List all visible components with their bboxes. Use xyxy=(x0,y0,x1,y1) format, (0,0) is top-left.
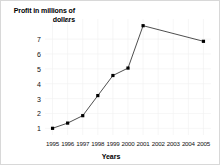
y-axis-tick-label: 1 xyxy=(29,125,41,132)
x-axis-tick-label: 2005 xyxy=(192,140,214,147)
x-axis-title: Years xyxy=(1,153,220,160)
y-axis-tick-label: 4 xyxy=(29,80,41,87)
y-axis-tick-label: 7 xyxy=(29,36,41,43)
data-point-marker xyxy=(141,24,144,27)
data-point-marker xyxy=(81,114,84,117)
y-axis-tick-label: 6 xyxy=(29,50,41,57)
data-point-marker xyxy=(96,94,99,97)
data-point-marker xyxy=(66,122,69,125)
data-point-marker xyxy=(126,66,129,69)
y-axis-tick-label: 3 xyxy=(29,95,41,102)
data-point-marker xyxy=(111,74,114,77)
y-axis-tick-label: 5 xyxy=(29,65,41,72)
data-point-marker xyxy=(202,40,205,43)
data-point-marker xyxy=(51,127,54,130)
plot-area xyxy=(45,19,211,135)
chart-figure: Profit in millions of dollars 1234567 19… xyxy=(0,0,220,165)
y-axis-tick-label: 2 xyxy=(29,110,41,117)
line-chart-svg xyxy=(45,19,211,135)
